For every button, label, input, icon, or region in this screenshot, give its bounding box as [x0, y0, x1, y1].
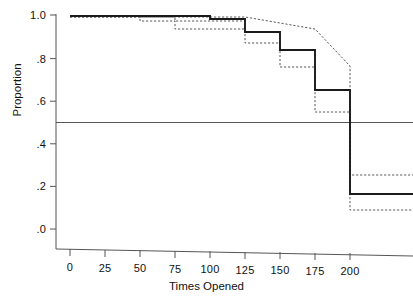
x-tick-label-4: 75	[169, 263, 182, 275]
x-tick-label-6: 125	[236, 264, 255, 276]
y-tick-label-4: .4	[22, 138, 46, 150]
x-tick-label-5: 100	[201, 263, 220, 275]
x-tick-label-2: 25	[99, 262, 112, 274]
y-tick-label-6: .0	[22, 223, 46, 235]
y-axis-label: Proportion	[11, 45, 23, 135]
x-tick-label-7: 150	[271, 264, 290, 276]
x-tick-label-9: 200	[341, 265, 360, 277]
upper-confidence-band	[70, 17, 413, 175]
x-axis-label: Times Opened	[0, 280, 413, 292]
y-tick-label-3: .6	[22, 95, 46, 107]
x-tick-label-8: 175	[306, 265, 325, 277]
y-tick-label-1: 1.0	[22, 9, 46, 21]
y-axis-ticks	[50, 15, 56, 229]
x-tick-label-1: 0	[67, 261, 73, 273]
survival-curve	[70, 16, 413, 194]
y-tick-label-2: .8	[22, 53, 46, 65]
chart-figure: 1.0 .8 .6 .4 .2 .0 0 25 50 75 100 125 15…	[0, 0, 413, 305]
survival-plot	[0, 0, 413, 305]
lower-confidence-band	[70, 17, 413, 210]
x-axis-line	[56, 249, 413, 256]
y-tick-label-5: .2	[22, 180, 46, 192]
x-axis-ticks	[70, 249, 350, 260]
x-tick-label-3: 50	[134, 262, 147, 274]
